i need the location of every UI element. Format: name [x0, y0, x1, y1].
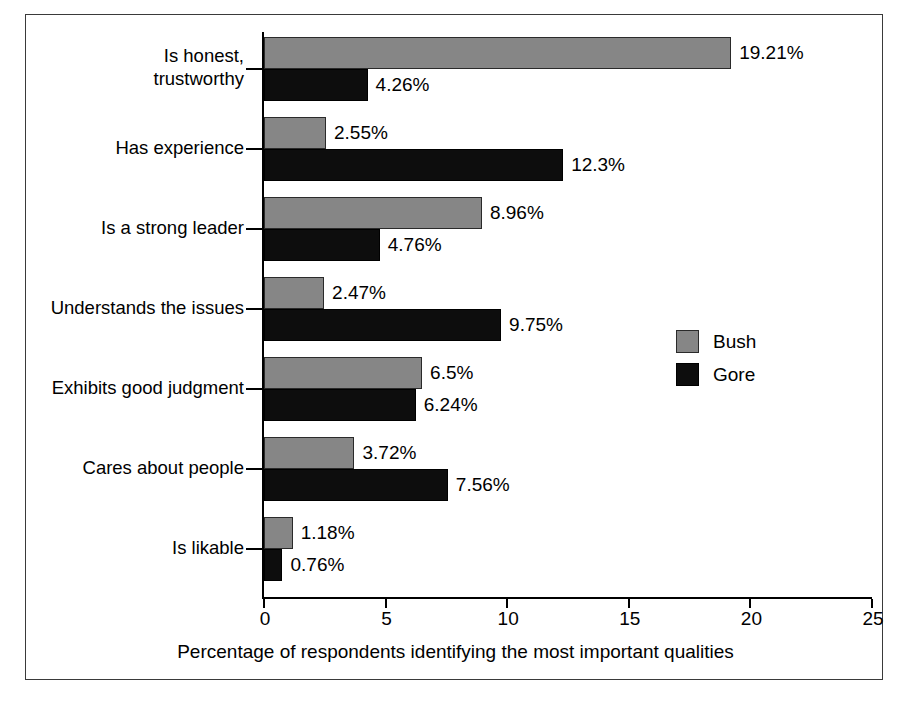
x-tick-label-25: 25: [843, 608, 903, 630]
bar-value-label-bush-2: 8.96%: [490, 202, 544, 224]
x-axis-line: [262, 597, 872, 599]
x-tick-20: [749, 599, 751, 608]
bar-value-label-gore-3: 9.75%: [509, 314, 563, 336]
category-label-1: Has experience: [115, 136, 244, 159]
bar-value-label-bush-4: 6.5%: [430, 362, 473, 384]
y-tick-0: [246, 68, 263, 70]
legend-swatch-gore-icon: [676, 363, 699, 386]
bar-bush-6: [264, 517, 293, 549]
bar-value-label-gore-4: 6.24%: [424, 394, 478, 416]
bar-gore-6: [264, 549, 282, 581]
category-label-0: Is honest, trustworthy: [154, 44, 244, 90]
x-tick-label-10: 10: [478, 608, 538, 630]
x-tick-label-15: 15: [600, 608, 660, 630]
legend-item-gore: Gore: [676, 358, 756, 391]
bar-value-label-gore-2: 4.76%: [388, 234, 442, 256]
bar-gore-4: [264, 389, 416, 421]
bar-value-label-bush-6: 1.18%: [301, 522, 355, 544]
bar-gore-3: [264, 309, 501, 341]
category-label-2: Is a strong leader: [101, 216, 244, 239]
figure: 0510152025 Is honest, trustworthyHas exp…: [0, 0, 911, 704]
bar-gore-2: [264, 229, 380, 261]
bar-value-label-gore-1: 12.3%: [571, 154, 625, 176]
legend-label-gore: Gore: [713, 364, 755, 386]
bar-gore-1: [264, 149, 563, 181]
category-label-3: Understands the issues: [51, 296, 244, 319]
bar-gore-5: [264, 469, 448, 501]
bar-value-label-gore-5: 7.56%: [456, 474, 510, 496]
bar-bush-5: [264, 437, 354, 469]
chart-legend: Bush Gore: [676, 325, 756, 391]
bar-chart-plot-area: 0510152025 Is honest, trustworthyHas exp…: [0, 0, 911, 704]
bar-value-label-gore-6: 0.76%: [290, 554, 344, 576]
y-tick-1: [246, 148, 263, 150]
bar-value-label-bush-0: 19.21%: [739, 42, 803, 64]
x-tick-0: [263, 599, 265, 608]
x-tick-label-20: 20: [721, 608, 781, 630]
category-label-4: Exhibits good judgment: [52, 376, 244, 399]
x-tick-15: [628, 599, 630, 608]
x-axis-title: Percentage of respondents identifying th…: [0, 640, 911, 663]
legend-item-bush: Bush: [676, 325, 756, 358]
category-label-6: Is likable: [172, 536, 244, 559]
x-tick-5: [385, 599, 387, 608]
y-tick-2: [246, 228, 263, 230]
bar-value-label-bush-5: 3.72%: [362, 442, 416, 464]
x-tick-10: [506, 599, 508, 608]
x-tick-label-5: 5: [357, 608, 417, 630]
y-tick-3: [246, 308, 263, 310]
y-tick-6: [246, 548, 263, 550]
legend-label-bush: Bush: [713, 331, 756, 353]
bar-bush-0: [264, 37, 731, 69]
x-tick-label-0: 0: [235, 608, 295, 630]
category-label-5: Cares about people: [83, 456, 244, 479]
bar-bush-3: [264, 277, 324, 309]
bar-bush-1: [264, 117, 326, 149]
bar-gore-0: [264, 69, 368, 101]
bar-bush-4: [264, 357, 422, 389]
y-tick-4: [246, 388, 263, 390]
bar-bush-2: [264, 197, 482, 229]
x-tick-25: [871, 599, 873, 608]
bar-value-label-gore-0: 4.26%: [376, 74, 430, 96]
y-tick-5: [246, 468, 263, 470]
bar-value-label-bush-1: 2.55%: [334, 122, 388, 144]
bar-value-label-bush-3: 2.47%: [332, 282, 386, 304]
legend-swatch-bush-icon: [676, 330, 699, 353]
